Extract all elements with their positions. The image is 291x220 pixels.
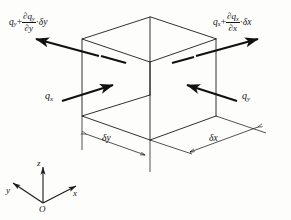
flux-in-x-q-sub: x xyxy=(50,95,53,102)
flux-out-y-fraction: ∂qy ∂y xyxy=(22,11,36,34)
flux-in-y-q-sub: y xyxy=(247,95,250,102)
arrow-flux-in-x xyxy=(62,85,113,101)
flux-out-x-fraction: ∂qx ∂x xyxy=(226,11,240,34)
axis-x-line xyxy=(43,186,76,203)
flux-out-x-denominator: ∂x xyxy=(226,23,240,33)
flux-out-y-den-var: y xyxy=(29,23,33,33)
flux-in-y-label: qy xyxy=(242,91,250,103)
arrow-flux-out-y-tail xyxy=(101,56,126,63)
flux-out-y-num-q-sub: y xyxy=(32,15,35,21)
flux-out-y-delta-var: y xyxy=(43,17,47,27)
dimension-delta-x xyxy=(150,116,266,154)
flux-out-x-label: qx+ ∂qx ∂x ·δx xyxy=(213,11,251,34)
cube-vertical-edges xyxy=(82,17,216,140)
axis-label-y: y xyxy=(6,186,10,195)
dimension-delta-y-label: δy xyxy=(102,134,111,144)
flux-in-x-label: qx xyxy=(45,91,53,103)
dimension-delta-x-label: δx xyxy=(209,134,218,144)
flux-out-x-num-q-sub: x xyxy=(236,15,239,21)
arrow-flux-out-x-tail xyxy=(172,57,194,63)
flux-out-x-delta-var: x xyxy=(247,17,251,27)
coordinate-axes xyxy=(13,167,76,203)
axis-origin-label: O xyxy=(39,205,46,214)
flux-out-x-numerator: ∂qx xyxy=(226,11,240,24)
dimension-delta-y xyxy=(82,116,150,172)
delta-x-var: x xyxy=(213,133,217,143)
control-volume-cube xyxy=(82,17,216,140)
flux-out-y-label: qy+ ∂qy ∂y ·δy xyxy=(9,11,47,34)
axis-label-z: z xyxy=(37,159,41,168)
axis-y-line xyxy=(13,183,43,203)
flux-out-y-numerator: ∂qy xyxy=(22,11,36,24)
delta-y-var: y xyxy=(106,133,110,143)
flux-out-x-den-var: x xyxy=(233,23,237,33)
arrow-flux-in-y xyxy=(187,85,237,101)
flux-out-y-denominator: ∂y xyxy=(22,23,36,33)
heat-flux-element-figure: qy+ ∂qy ∂y ·δy qx+ ∂qx ∂x ·δx qx qy δy δ… xyxy=(0,0,291,220)
arrow-flux-out-x xyxy=(196,39,258,56)
axis-label-x: x xyxy=(73,189,77,198)
